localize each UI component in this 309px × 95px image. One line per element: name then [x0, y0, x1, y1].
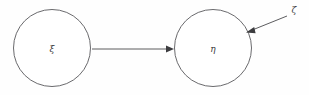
edge-zeta-label: ζ — [292, 5, 298, 15]
diagram-canvas: ξ η ζ — [0, 0, 309, 95]
node-eta-label: η — [210, 44, 216, 54]
node-xi[interactable]: ξ — [14, 10, 91, 87]
edge-zeta-to-eta-line[interactable] — [251, 16, 287, 31]
edge-xi-to-eta[interactable] — [92, 46, 174, 53]
edge-zeta-to-eta[interactable] — [246, 16, 287, 33]
path-diagram: ξ η ζ — [0, 0, 309, 95]
node-eta[interactable]: η — [175, 10, 252, 87]
edge-xi-to-eta-arrowhead-icon — [166, 46, 174, 53]
